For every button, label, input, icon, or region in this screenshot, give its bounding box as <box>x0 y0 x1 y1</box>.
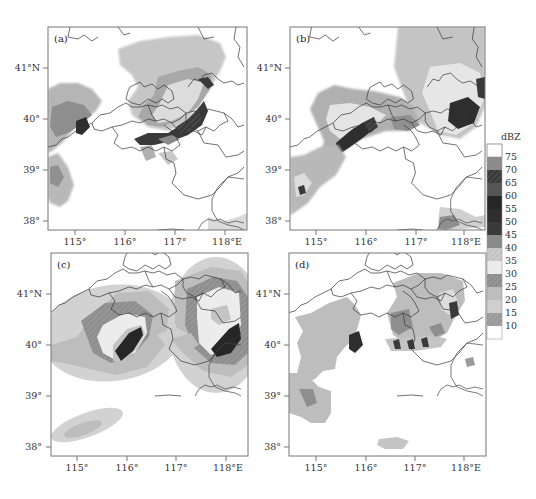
x-tick-117: 117° <box>165 462 188 473</box>
y-tick-39: 39° <box>265 164 282 175</box>
x-tick-116: 116° <box>114 236 137 247</box>
panel-a: (a) <box>48 27 247 230</box>
y-axis-d: 41°N 40° 39° 38° <box>256 288 289 452</box>
colorbar-label-40: 40 <box>505 242 517 253</box>
x-tick-116: 116° <box>116 462 139 473</box>
colorbar-label-35: 35 <box>505 255 517 266</box>
y-axis-a: 41°N 40° 39° 38° <box>15 62 48 226</box>
y-tick-40: 40° <box>23 113 40 124</box>
x-tick-115: 115° <box>305 462 328 473</box>
x-tick-115: 115° <box>64 236 87 247</box>
colorbar-label-15: 15 <box>505 307 517 318</box>
colorbar-label-20: 20 <box>505 294 517 305</box>
x-tick-116: 116° <box>355 236 378 247</box>
y-axis-c: 41°N 40° 39° 38° <box>17 288 51 452</box>
panel-d: (d) <box>287 193 486 456</box>
colorbar-label-65: 65 <box>505 177 517 188</box>
colorbar-swatches <box>487 144 502 339</box>
x-tick-118: 118°E <box>212 236 242 247</box>
colorbar-labels: 75 70 65 60 55 50 45 40 35 30 25 20 15 1… <box>505 151 517 331</box>
y-axis-b: 41°N 40° 39° 38° <box>257 62 290 226</box>
x-tick-117: 117° <box>405 236 428 247</box>
colorbar-label-75: 75 <box>505 151 517 162</box>
x-tick-117: 117° <box>404 462 427 473</box>
colorbar-label-70: 70 <box>505 164 517 175</box>
panel-c: (c) <box>35 193 264 456</box>
x-tick-116: 116° <box>355 462 378 473</box>
colorbar-unit: dBZ <box>501 131 521 142</box>
y-tick-40: 40° <box>264 339 281 350</box>
colorbar-label-30: 30 <box>505 268 517 279</box>
panel-label-a: (a) <box>54 33 68 44</box>
colorbar-label-60: 60 <box>505 190 517 201</box>
colorbar-label-25: 25 <box>505 281 517 292</box>
y-tick-41: 41°N <box>15 62 40 73</box>
y-tick-40: 40° <box>265 113 282 124</box>
y-tick-38: 38° <box>265 215 282 226</box>
y-tick-38: 38° <box>25 441 42 452</box>
figure-canvas: (a) (b) <box>0 0 536 499</box>
x-tick-115: 115° <box>305 236 328 247</box>
y-tick-38: 38° <box>264 441 281 452</box>
x-axis-c: 115° 116° 117° 118°E <box>66 456 243 473</box>
colorbar-label-50: 50 <box>505 216 517 227</box>
panel-label-d: (d) <box>295 259 309 270</box>
x-tick-117: 117° <box>164 236 187 247</box>
colorbar-label-55: 55 <box>505 203 517 214</box>
panel-label-b: (b) <box>296 33 310 44</box>
panel-b: (b) <box>290 27 485 230</box>
x-tick-118: 118°E <box>451 236 481 247</box>
colorbar: dBZ 75 70 65 60 55 50 45 <box>487 131 521 339</box>
y-tick-39: 39° <box>264 390 281 401</box>
panel-label-c: (c) <box>57 259 71 270</box>
x-tick-115: 115° <box>66 462 89 473</box>
y-tick-41: 41°N <box>257 62 282 73</box>
y-tick-38: 38° <box>23 215 40 226</box>
colorbar-label-10: 10 <box>505 320 517 331</box>
x-axis-b: 115° 116° 117° 118°E <box>305 230 481 247</box>
x-tick-118: 118°E <box>451 462 481 473</box>
y-tick-39: 39° <box>25 390 42 401</box>
colorbar-label-45: 45 <box>505 229 517 240</box>
x-tick-118: 118°E <box>213 462 243 473</box>
y-tick-39: 39° <box>23 164 40 175</box>
y-tick-40: 40° <box>25 339 42 350</box>
y-tick-41: 41°N <box>17 288 42 299</box>
y-tick-41: 41°N <box>256 288 281 299</box>
x-axis-a: 115° 116° 117° 118°E <box>64 230 242 247</box>
x-axis-d: 115° 116° 117° 118°E <box>305 456 481 473</box>
